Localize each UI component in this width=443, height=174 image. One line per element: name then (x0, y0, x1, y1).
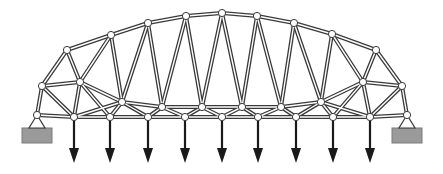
truss-node (218, 113, 225, 120)
load-arrow (105, 119, 115, 163)
truss-member-highlight (363, 82, 370, 117)
truss-member-highlight (148, 16, 186, 23)
load-arrow (217, 119, 227, 163)
truss-member-highlight (122, 23, 148, 102)
truss-node (317, 98, 324, 105)
truss-member-highlight (294, 23, 321, 102)
load-arrow-head (253, 148, 263, 163)
truss-member-highlight (242, 16, 257, 107)
load-arrow (69, 119, 79, 163)
truss-node (277, 103, 284, 110)
support-block (392, 128, 422, 143)
truss-node (38, 82, 45, 89)
load-arrow (291, 119, 301, 163)
truss-node (63, 46, 70, 53)
load-arrow-head (291, 148, 301, 163)
truss-node (398, 82, 405, 89)
truss-node (359, 78, 366, 85)
truss-node (292, 113, 299, 120)
truss-node (33, 111, 40, 118)
load-arrow-head (365, 148, 375, 163)
truss-member-highlight (321, 34, 332, 102)
truss-member-highlight (186, 16, 202, 107)
truss-node (328, 30, 335, 37)
load-arrow (180, 119, 190, 163)
load-arrow-head (69, 148, 79, 163)
truss-member-highlight (257, 16, 281, 107)
truss-node (218, 9, 225, 16)
truss-member-highlight (74, 82, 80, 117)
truss-member-highlight (202, 13, 222, 107)
truss-member-highlight (148, 23, 162, 107)
truss-member-highlight (111, 35, 122, 102)
truss-member-highlight (67, 50, 80, 82)
truss-node (254, 113, 261, 120)
truss-node (158, 103, 165, 110)
load-arrow (328, 119, 338, 163)
truss-member-highlight (370, 86, 402, 117)
truss-node (198, 103, 205, 110)
load-arrow (143, 119, 153, 163)
truss-member-highlight (363, 50, 376, 82)
truss-member-highlight (222, 13, 242, 107)
load-arrow (365, 119, 375, 163)
truss-member-highlight (42, 50, 67, 86)
pin-support (22, 115, 52, 143)
truss-member-highlight (42, 86, 74, 117)
load-arrow-head (143, 148, 153, 163)
load-arrow-head (328, 148, 338, 163)
pin-support (392, 115, 422, 143)
truss-node (372, 46, 379, 53)
truss-node (107, 31, 114, 38)
truss-member-highlight (162, 16, 186, 107)
support-block (22, 128, 52, 143)
truss-node (366, 113, 373, 120)
truss-node (329, 113, 336, 120)
truss-node (144, 113, 151, 120)
truss-member-highlight (111, 23, 148, 35)
truss-node (290, 19, 297, 26)
load-arrow (253, 119, 263, 163)
truss-node (253, 12, 260, 19)
loads (69, 119, 375, 163)
truss-node (118, 98, 125, 105)
truss-member-highlight (294, 23, 332, 34)
truss-node (70, 113, 77, 120)
truss-node (403, 111, 410, 118)
truss-member-highlight (257, 16, 294, 23)
truss-node (238, 103, 245, 110)
load-arrow-head (180, 148, 190, 163)
truss-node (182, 12, 189, 19)
truss-node (106, 113, 113, 120)
load-arrow-head (105, 148, 115, 163)
truss-node (76, 78, 83, 85)
truss-node (181, 113, 188, 120)
truss-member-highlight (376, 50, 402, 86)
truss-node (144, 19, 151, 26)
load-arrow-head (217, 148, 227, 163)
truss-bridge-diagram (0, 0, 443, 174)
truss-member-highlight (281, 23, 294, 107)
